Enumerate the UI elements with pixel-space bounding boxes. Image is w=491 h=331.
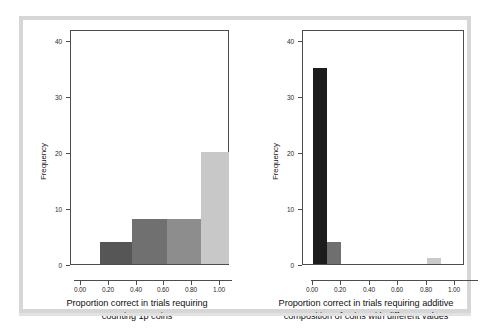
x-axis-tick-label: 0.40 [356, 286, 382, 294]
x-axis-tick [191, 281, 192, 285]
y-axis-tick-label: 30 [40, 94, 62, 101]
x-axis-tick-label: 0.00 [67, 286, 93, 294]
x-axis-tick [80, 281, 81, 285]
x-axis-tick-label: 0.80 [178, 286, 204, 294]
bars-layer-right [303, 31, 463, 264]
y-axis-tick-label: 10 [40, 206, 62, 213]
figure-root: 010203040 Frequency 0.000.200.400.600.80… [0, 0, 491, 331]
y-axis-tick [66, 153, 70, 154]
histogram-bar [313, 68, 327, 264]
histogram-bar [427, 258, 441, 264]
x-axis-tick-label: 0.80 [413, 286, 439, 294]
histogram-bar [167, 219, 200, 264]
x-axis-tick [454, 281, 455, 285]
x-axis-tick [219, 281, 220, 285]
x-axis-tick [163, 281, 164, 285]
y-axis-tick [298, 97, 302, 98]
histogram-bar [201, 152, 229, 264]
x-axis-tick [426, 281, 427, 285]
x-axis-tick-label: 0.20 [95, 286, 121, 294]
y-axis-tick-label: 10 [272, 206, 294, 213]
y-axis-line-left [70, 34, 71, 265]
y-axis-tick-label: 0 [272, 262, 294, 269]
plot-area-left [70, 30, 229, 265]
x-axis-title-left: Proportion correct in trials requiring c… [31, 297, 243, 323]
x-axis-line-right [311, 280, 478, 281]
y-axis-line-right [302, 34, 303, 265]
x-axis-tick [369, 281, 370, 285]
histogram-bar [132, 219, 167, 264]
histogram-bar [100, 242, 132, 264]
x-axis-tick [136, 281, 137, 285]
y-axis-tick [298, 41, 302, 42]
x-axis-tick-label: 1.00 [206, 286, 232, 294]
x-axis-title-right-line2: composition of coins with different valu… [284, 311, 449, 321]
figure-border-frame: 010203040 Frequency 0.000.200.400.600.80… [19, 16, 471, 313]
x-axis-tick [397, 281, 398, 285]
x-axis-tick-label: 0.60 [150, 286, 176, 294]
x-axis-title-left-line1: Proportion correct in trials requiring [66, 298, 207, 308]
x-axis-tick [340, 281, 341, 285]
x-axis-tick-label: 0.60 [384, 286, 410, 294]
y-axis-tick-label: 30 [272, 94, 294, 101]
y-axis-tick-label: 40 [272, 38, 294, 45]
x-axis-tick [108, 281, 109, 285]
x-axis-tick-label: 0.00 [299, 286, 325, 294]
plot-area-right [302, 30, 464, 265]
y-axis-tick [298, 209, 302, 210]
x-axis-title-right: Proportion correct in trials requiring a… [255, 297, 477, 323]
chart-panel-left: 010203040 Frequency 0.000.200.400.600.80… [23, 20, 249, 317]
x-axis-title-left-line2: counting 1p coins [102, 311, 173, 321]
y-axis-title-left: Frequency [39, 143, 48, 180]
y-axis-tick [66, 97, 70, 98]
x-axis-tick-label: 0.20 [327, 286, 353, 294]
x-axis-tick-label: 0.40 [123, 286, 149, 294]
y-axis-tick [66, 209, 70, 210]
x-axis-line-left [74, 280, 232, 281]
y-axis-title-right: Frequency [271, 143, 280, 180]
y-axis-tick-label: 40 [40, 38, 62, 45]
histogram-bar [327, 242, 341, 264]
y-axis-tick [66, 41, 70, 42]
y-axis-tick-label: 0 [40, 262, 62, 269]
y-axis-tick [298, 153, 302, 154]
x-axis-title-right-line1: Proportion correct in trials requiring a… [279, 298, 454, 308]
bars-layer-left [71, 31, 228, 264]
y-axis-tick [298, 265, 302, 266]
y-axis-tick [66, 265, 70, 266]
x-axis-tick [312, 281, 313, 285]
chart-panel-right: 010203040 Frequency [249, 20, 471, 317]
x-axis-tick-label: 1.00 [441, 286, 467, 294]
